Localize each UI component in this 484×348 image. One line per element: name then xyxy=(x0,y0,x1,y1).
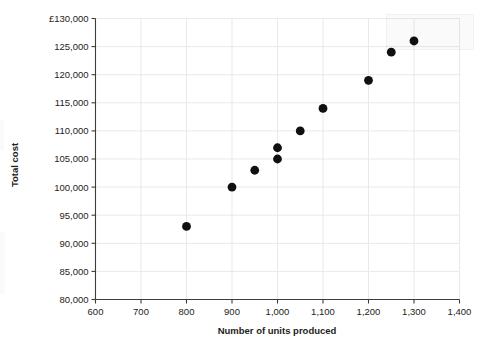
x-tick-label: 1,000 xyxy=(266,306,290,317)
data-point xyxy=(410,37,419,46)
y-axis-title: Total cost xyxy=(9,142,20,187)
x-tick-label: 1,400 xyxy=(448,306,472,317)
y-axis-tick-labels: 80,00085,00090,00095,000100,000105,00011… xyxy=(49,13,89,305)
y-tick-label: 90,000 xyxy=(59,238,88,249)
data-point xyxy=(250,166,259,175)
data-point xyxy=(364,76,373,85)
y-tick-label: 115,000 xyxy=(55,97,89,108)
x-axis-title: Number of units produced xyxy=(218,325,337,336)
x-tick-label: 1,100 xyxy=(311,306,335,317)
chart-canvas: 80,00085,00090,00095,000100,000105,00011… xyxy=(0,0,484,348)
data-point xyxy=(319,104,328,113)
scatter-chart: 80,00085,00090,00095,000100,000105,00011… xyxy=(0,0,484,348)
y-tick-label: 110,000 xyxy=(55,125,89,136)
y-tick-label: 95,000 xyxy=(59,210,88,221)
y-tick-label: 120,000 xyxy=(54,69,88,80)
y-tick-label: 105,000 xyxy=(54,153,88,164)
y-tick-label: 80,000 xyxy=(59,294,88,305)
x-tick-label: 700 xyxy=(133,306,149,317)
data-point xyxy=(296,126,305,135)
x-tick-label: 900 xyxy=(224,306,240,317)
data-point xyxy=(273,155,282,164)
data-point xyxy=(273,143,282,152)
x-axis-tick-labels: 6007008009001,0001,1001,2001,3001,400 xyxy=(88,306,472,317)
y-axis-ticks xyxy=(92,19,96,300)
x-axis-ticks xyxy=(96,300,460,304)
y-tick-label: 125,000 xyxy=(54,41,88,52)
y-tick-label: 100,000 xyxy=(54,182,88,193)
data-point xyxy=(387,48,396,57)
x-tick-label: 600 xyxy=(88,306,104,317)
y-tick-label: £130,000 xyxy=(49,13,89,24)
x-tick-label: 1,300 xyxy=(402,306,426,317)
y-tick-label: 85,000 xyxy=(59,266,88,277)
data-point xyxy=(182,222,191,231)
x-tick-label: 800 xyxy=(179,306,195,317)
data-point xyxy=(228,183,237,192)
data-points-layer xyxy=(182,37,418,231)
x-tick-label: 1,200 xyxy=(357,306,381,317)
